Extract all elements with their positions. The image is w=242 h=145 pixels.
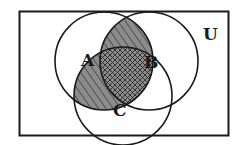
label-b: B: [144, 52, 158, 72]
label-universe: U: [203, 24, 218, 44]
venn-diagram: A B C U: [0, 0, 242, 145]
label-c: C: [113, 100, 127, 120]
venn-svg: A B C U: [0, 0, 242, 145]
label-a: A: [80, 50, 95, 70]
